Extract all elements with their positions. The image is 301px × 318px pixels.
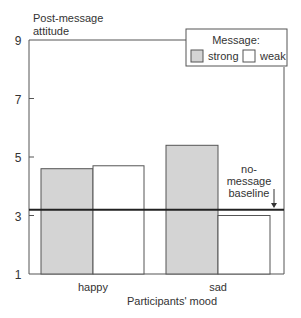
x-tick-label: happy: [78, 281, 108, 293]
chart: 13579Post-messageattitudehappysadPartici…: [0, 0, 301, 318]
baseline-label: no-: [241, 163, 257, 175]
legend-label-strong: strong: [208, 50, 239, 62]
baseline-label: baseline: [229, 187, 270, 199]
legend-swatch-strong: [191, 50, 203, 62]
bar-happy-weak: [93, 166, 144, 274]
bar-happy-strong: [41, 169, 93, 274]
y-tick-label: 9: [15, 34, 22, 48]
y-axis-label: attitude: [33, 25, 69, 37]
y-tick-label: 7: [15, 93, 22, 107]
y-tick-label: 1: [15, 268, 22, 282]
y-tick-label: 5: [15, 151, 22, 165]
legend-title: Message:: [212, 34, 260, 46]
bar-chart: 13579Post-messageattitudehappysadPartici…: [0, 0, 301, 318]
baseline-label: message: [227, 175, 272, 187]
bar-sad-weak: [218, 216, 270, 275]
y-tick-label: 3: [15, 210, 22, 224]
x-tick-label: sad: [209, 281, 227, 293]
legend-swatch-weak: [243, 50, 255, 62]
legend-label-weak: weak: [259, 50, 286, 62]
baseline-arrow-head: [271, 203, 277, 208]
x-axis-label: Participants' mood: [127, 295, 217, 307]
y-axis-label: Post-message: [33, 12, 103, 24]
